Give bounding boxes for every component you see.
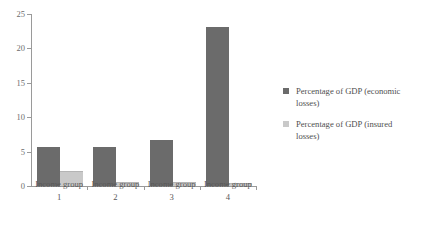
x-axis-label-line: Income group xyxy=(194,178,262,191)
y-axis-tick-label: 5 xyxy=(21,147,25,156)
plot-area: 0510152025 xyxy=(31,14,256,186)
bar-group xyxy=(144,14,200,186)
legend-entry[interactable]: Percentage of GDP (insuredlosses) xyxy=(283,119,439,142)
x-axis-label: Income group4 xyxy=(194,178,262,203)
x-axis-label-line: 4 xyxy=(194,191,262,204)
legend-label-line: losses) xyxy=(296,131,439,143)
y-axis-tick-label: 20 xyxy=(17,44,26,53)
legend-label-line: Percentage of GDP (insured xyxy=(296,119,439,131)
y-axis-tick-label: 15 xyxy=(17,79,26,88)
bar-group xyxy=(87,14,143,186)
legend-swatch-icon xyxy=(283,121,289,127)
legend-label-line: Percentage of GDP (economic xyxy=(296,86,439,98)
chart-legend: Percentage of GDP (economiclosses)Percen… xyxy=(283,86,439,152)
y-axis-tick-label: 25 xyxy=(17,10,26,19)
legend-swatch-icon xyxy=(283,88,289,94)
legend-entry[interactable]: Percentage of GDP (economiclosses) xyxy=(283,86,439,109)
chart-screenshot: 0510152025 Income group1Income group2Inc… xyxy=(0,0,442,228)
bar-group xyxy=(200,14,256,186)
y-axis-tick-label: 10 xyxy=(17,113,26,122)
legend-label-line: losses) xyxy=(296,98,439,110)
bar-group xyxy=(31,14,87,186)
bar xyxy=(206,27,229,186)
